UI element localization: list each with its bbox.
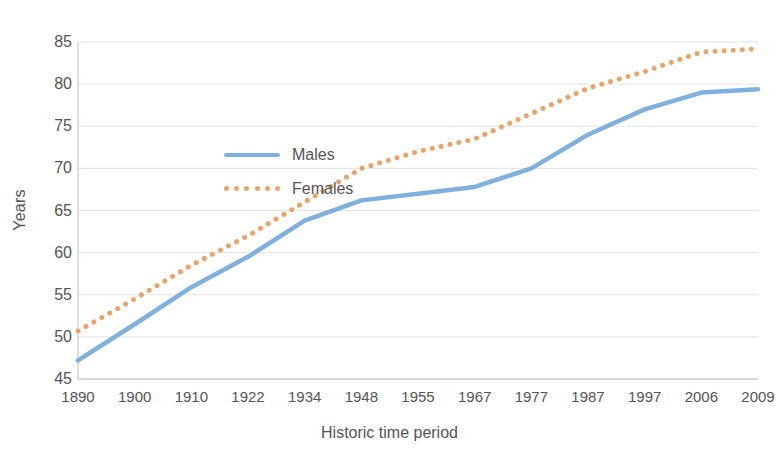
- y-tick-label: 60: [30, 244, 72, 262]
- y-tick-label: 50: [30, 328, 72, 346]
- legend-swatch-dotted-icon: [224, 182, 280, 196]
- plot-svg: [78, 42, 758, 379]
- y-tick-label: 55: [30, 286, 72, 304]
- y-tick-label: 80: [30, 75, 72, 93]
- x-tick-label: 1977: [515, 388, 548, 405]
- y-tick-label: 75: [30, 117, 72, 135]
- series-line-males: [78, 89, 758, 360]
- x-tick-label: 1967: [458, 388, 491, 405]
- legend-item-females[interactable]: Females: [224, 172, 404, 206]
- x-tick-label: 2009: [741, 388, 774, 405]
- x-tick-label: 1890: [61, 388, 94, 405]
- legend-item-males[interactable]: Males: [224, 138, 404, 172]
- legend-swatch-line-icon: [224, 148, 280, 162]
- gridlines: [78, 42, 758, 379]
- x-tick-label: 1922: [231, 388, 264, 405]
- x-axis-tick-labels: 1890190019101922193419481955196719771987…: [78, 388, 758, 414]
- y-tick-label: 85: [30, 33, 72, 51]
- x-tick-label: 2006: [685, 388, 718, 405]
- x-tick-label: 1997: [628, 388, 661, 405]
- x-axis-title: Historic time period: [0, 424, 779, 442]
- series-line-females: [78, 49, 758, 331]
- chart-legend: Males Females: [224, 138, 404, 206]
- x-tick-label: 1900: [118, 388, 151, 405]
- x-tick-label: 1934: [288, 388, 321, 405]
- life-expectancy-line-chart: Years 858075706560555045 Males Females 1: [0, 0, 779, 457]
- plot-area: Males Females: [78, 42, 758, 379]
- y-tick-label: 45: [30, 370, 72, 388]
- y-tick-label: 65: [30, 202, 72, 220]
- series-layer: [78, 49, 758, 361]
- x-tick-label: 1910: [175, 388, 208, 405]
- legend-label-females: Females: [292, 180, 353, 198]
- x-tick-label: 1955: [401, 388, 434, 405]
- y-tick-label: 70: [30, 159, 72, 177]
- x-tick-label: 1987: [571, 388, 604, 405]
- legend-label-males: Males: [292, 146, 335, 164]
- x-tick-label: 1948: [345, 388, 378, 405]
